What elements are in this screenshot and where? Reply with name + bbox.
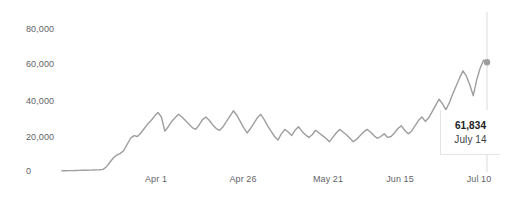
y-axis-tick-40000: 40,000 [26, 96, 54, 106]
tooltip-date: July 14 [454, 134, 486, 145]
x-axis-tick-jun-15: Jun 15 [376, 174, 424, 184]
tooltip: 61,834 July 14 [440, 110, 500, 155]
highlight-data-point[interactable] [484, 59, 490, 65]
x-axis-tick-may-21: May 21 [304, 174, 352, 184]
y-axis-tick-60000: 60,000 [26, 59, 54, 69]
chart-plot-area [0, 0, 511, 200]
line-chart: 80,000 60,000 40,000 20,000 0 Apr 1 Apr … [0, 0, 511, 200]
x-axis-tick-apr-26: Apr 26 [219, 174, 267, 184]
tooltip-value: 61,834 [455, 120, 486, 131]
x-axis-tick-jul-10: Jul 10 [455, 174, 503, 184]
y-axis-tick-0: 0 [26, 166, 31, 176]
data-series-line [62, 60, 487, 171]
y-axis-tick-20000: 20,000 [26, 132, 54, 142]
x-axis-tick-apr-1: Apr 1 [132, 174, 180, 184]
y-axis-tick-80000: 80,000 [26, 24, 54, 34]
